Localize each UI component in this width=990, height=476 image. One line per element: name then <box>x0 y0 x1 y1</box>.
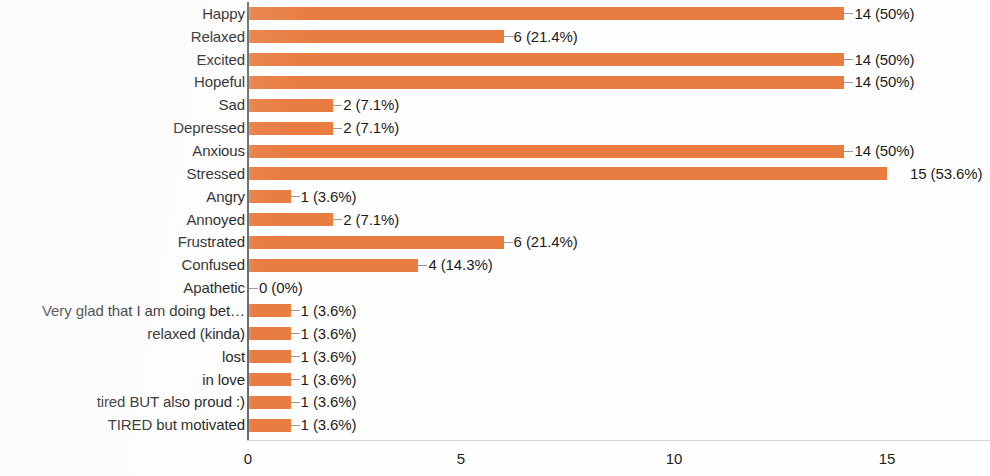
bar-and-label: 1 (3.6%) <box>249 368 356 391</box>
bar <box>249 236 504 249</box>
bar-row: TIRED but motivated1 (3.6%) <box>0 414 990 437</box>
category-label: Depressed <box>3 120 248 136</box>
leader-line <box>844 82 853 83</box>
x-axis-tick-label: 10 <box>666 450 683 467</box>
bar-chart: Happy14 (50%)Relaxed6 (21.4%)Excited14 (… <box>0 0 990 476</box>
bar <box>249 145 844 158</box>
bar-row: relaxed (kinda)1 (3.6%) <box>0 322 990 345</box>
leader-line <box>504 36 513 37</box>
bar-and-label: 14 (50%) <box>249 3 914 26</box>
leader-line <box>418 265 427 266</box>
x-axis-tick-label: 5 <box>457 450 465 467</box>
bar-and-label: 4 (14.3%) <box>249 254 493 277</box>
leader-line <box>504 242 513 243</box>
category-label: Confused <box>3 257 248 273</box>
leader-line <box>291 402 300 403</box>
value-label: 0 (0%) <box>258 280 303 296</box>
value-label: 1 (3.6%) <box>300 303 357 319</box>
bar-row: Confused4 (14.3%) <box>0 254 990 277</box>
value-label: 1 (3.6%) <box>300 394 357 410</box>
bar-row: Annoyed2 (7.1%) <box>0 208 990 231</box>
bar <box>249 373 291 386</box>
leader-line <box>333 219 342 220</box>
bar-and-label: 14 (50%) <box>249 140 914 163</box>
bar-and-label: 1 (3.6%) <box>249 300 356 323</box>
leader-line <box>844 59 853 60</box>
category-label: Anxious <box>3 143 248 159</box>
bar <box>249 122 333 135</box>
bar <box>249 53 844 66</box>
value-label: 2 (7.1%) <box>342 212 399 228</box>
bar-row: Depressed2 (7.1%) <box>0 117 990 140</box>
bar-row: lost1 (3.6%) <box>0 345 990 368</box>
leader-line <box>291 379 300 380</box>
bar-row: in love1 (3.6%) <box>0 368 990 391</box>
bar-and-label: 0 (0%) <box>249 277 303 300</box>
y-axis-line <box>247 2 249 440</box>
category-label: Sad <box>3 97 248 113</box>
value-label: 14 (50%) <box>853 6 914 22</box>
category-label: Angry <box>3 189 248 205</box>
leader-line <box>291 425 300 426</box>
category-label: Relaxed <box>3 29 248 45</box>
category-label: Stressed <box>3 166 248 182</box>
bar-and-label: 15 (53.6%) <box>249 162 982 185</box>
bar <box>249 259 418 272</box>
x-axis-tick-label: 15 <box>879 450 896 467</box>
value-label: 2 (7.1%) <box>342 120 399 136</box>
value-label: 6 (21.4%) <box>513 29 578 45</box>
bar-and-label: 2 (7.1%) <box>249 208 399 231</box>
value-label: 1 (3.6%) <box>300 189 357 205</box>
bar-and-label: 6 (21.4%) <box>249 231 578 254</box>
leader-line <box>291 310 300 311</box>
bar <box>249 7 844 20</box>
category-label: Happy <box>3 6 248 22</box>
bar <box>249 76 844 89</box>
leader-line <box>333 128 342 129</box>
bar-and-label: 1 (3.6%) <box>249 391 356 414</box>
value-label: 1 (3.6%) <box>300 349 357 365</box>
bar <box>249 167 887 180</box>
category-label: Excited <box>3 52 248 68</box>
leader-line <box>249 288 258 289</box>
category-label: Annoyed <box>3 212 248 228</box>
value-label: 14 (50%) <box>853 143 914 159</box>
bar <box>249 396 291 409</box>
bar-and-label: 2 (7.1%) <box>249 94 399 117</box>
value-label: 2 (7.1%) <box>342 97 399 113</box>
value-label: 14 (50%) <box>853 74 914 90</box>
bar <box>249 30 504 43</box>
leader-line <box>844 151 853 152</box>
bar-row: Frustrated6 (21.4%) <box>0 231 990 254</box>
category-label: relaxed (kinda) <box>3 326 248 342</box>
bar-row: Happy14 (50%) <box>0 3 990 26</box>
bar <box>249 350 291 363</box>
bar-and-label: 14 (50%) <box>249 71 914 94</box>
bar-row: Apathetic0 (0%) <box>0 277 990 300</box>
bar-row: Sad2 (7.1%) <box>0 94 990 117</box>
bar-and-label: 1 (3.6%) <box>249 345 356 368</box>
bar-row: Very glad that I am doing bet…1 (3.6%) <box>0 300 990 323</box>
value-label: 1 (3.6%) <box>300 372 357 388</box>
bar-row: Hopeful14 (50%) <box>0 71 990 94</box>
bar-row: Angry1 (3.6%) <box>0 185 990 208</box>
bar <box>249 327 291 340</box>
value-label: 1 (3.6%) <box>300 417 357 433</box>
category-label: Frustrated <box>3 234 248 250</box>
value-label: 1 (3.6%) <box>300 326 357 342</box>
bar-and-label: 14 (50%) <box>249 48 914 71</box>
category-label: in love <box>3 372 248 388</box>
x-axis-line <box>247 440 990 441</box>
bar <box>249 190 291 203</box>
leader-line <box>291 196 300 197</box>
bar-row: Relaxed6 (21.4%) <box>0 25 990 48</box>
bar <box>249 213 333 226</box>
category-label: TIRED but motivated <box>3 417 248 433</box>
bar-row: tired BUT also proud :)1 (3.6%) <box>0 391 990 414</box>
leader-line <box>333 105 342 106</box>
value-label: 6 (21.4%) <box>513 234 578 250</box>
bar-and-label: 2 (7.1%) <box>249 117 399 140</box>
bar <box>249 419 291 432</box>
category-label: Apathetic <box>3 280 248 296</box>
category-label: tired BUT also proud :) <box>3 394 248 410</box>
